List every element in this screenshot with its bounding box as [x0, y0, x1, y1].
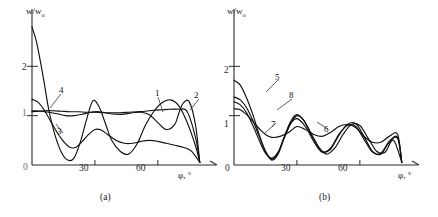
x-tick-0-a: 0 — [23, 162, 28, 172]
y-tick-1-b: 1 — [224, 119, 229, 129]
y-tick-1-a: 1 — [22, 108, 27, 118]
x-tick-0-b: 0 — [225, 163, 230, 173]
panel-a: w/wo φ, ° 0 30 60 1 2 1 2 3 4 (a) — [0, 0, 219, 217]
x-tick-30-b: 30 — [281, 163, 291, 173]
curve-label-6: 6 — [324, 124, 329, 134]
caption-a: (a) — [100, 192, 111, 202]
x-tick-60-b: 60 — [338, 163, 348, 173]
y-axis-label-b: w/wo — [227, 6, 246, 18]
panel-b: w/wo φ, ° 0 30 60 1 2 5 6 7 8 (b) — [219, 0, 438, 217]
figure-container: w/wo φ, ° 0 30 60 1 2 1 2 3 4 (a) w/wo φ… — [0, 0, 438, 217]
curve-label-4: 4 — [59, 85, 64, 95]
curve-label-7: 7 — [271, 119, 276, 129]
leader-line — [277, 99, 292, 110]
x-tick-30-a: 30 — [79, 163, 89, 173]
panel-b-plot — [219, 0, 438, 217]
leader-line — [190, 99, 199, 110]
curve-label-3: 3 — [57, 126, 62, 136]
curve-label-1: 1 — [155, 88, 160, 98]
x-axis-label-a: φ, ° — [178, 170, 191, 180]
leader-line — [50, 94, 61, 108]
panel-a-plot — [0, 0, 219, 217]
curve-4 — [32, 27, 200, 163]
curve-label-8: 8 — [289, 90, 294, 100]
y-tick-2-a: 2 — [22, 62, 27, 72]
caption-b: (b) — [319, 192, 330, 202]
curve-5 — [234, 80, 402, 162]
curve-7 — [234, 102, 402, 163]
curve-label-5: 5 — [275, 72, 280, 82]
curve-8 — [234, 97, 402, 163]
y-tick-2-b: 2 — [224, 65, 229, 75]
x-axis-label-b: φ, ° — [398, 170, 411, 180]
curve-label-2: 2 — [194, 90, 199, 100]
x-tick-60-a: 60 — [136, 163, 146, 173]
y-axis-label-a: w/wo — [26, 6, 45, 18]
